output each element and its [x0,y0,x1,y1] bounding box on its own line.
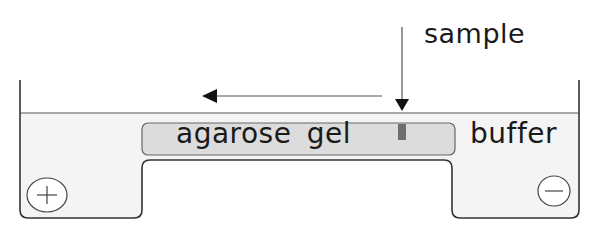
sample-well [398,124,406,140]
migration-arrow-head-icon [202,89,217,103]
sample-label: sample [424,20,525,47]
agarose-gel-label: agarose gel [176,120,351,148]
anode-plus-icon [27,178,67,212]
cathode-minus-icon [538,176,570,206]
buffer-label: buffer [470,120,557,148]
sample-arrow-head-icon [395,99,409,111]
